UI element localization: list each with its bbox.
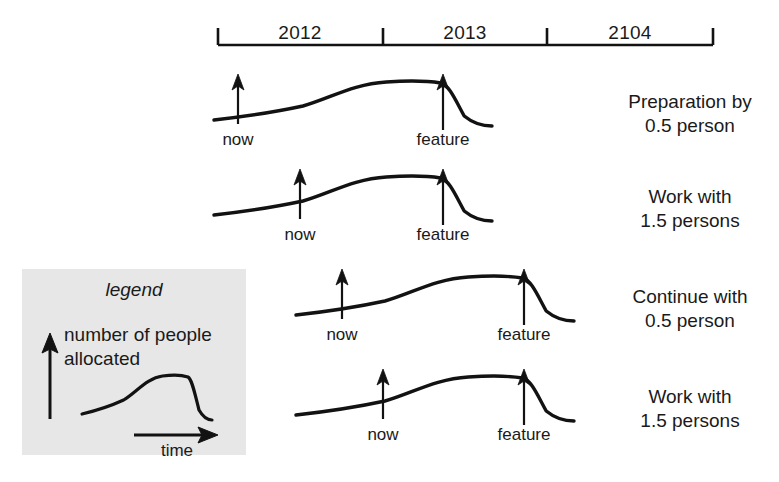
staffing-curve (214, 176, 492, 221)
staffing-curve (214, 81, 492, 126)
row-caption-line1: Work with (640, 385, 739, 409)
feature-label: feature (417, 225, 470, 245)
row-caption-line2: 1.5 persons (640, 209, 739, 233)
feature-label: feature (498, 425, 551, 445)
row-preparation: nowfeaturePreparation by0.5 person (0, 68, 779, 163)
row-caption-line2: 1.5 persons (640, 409, 739, 433)
row-caption: Work with1.5 persons (640, 385, 739, 433)
row-caption: Work with1.5 persons (640, 185, 739, 233)
legend-x-axis-label: time (161, 441, 193, 461)
year-label-2012: 2012 (240, 22, 360, 44)
row-caption: Continue with0.5 person (632, 285, 747, 333)
feature-label: feature (417, 130, 470, 150)
legend-sample-curve (82, 375, 212, 420)
row-caption-line1: Continue with (632, 285, 747, 309)
legend-y-axis-label-line2: allocated (64, 347, 212, 371)
row-caption-line2: 0.5 person (632, 309, 747, 333)
staffing-curve (296, 376, 574, 421)
legend-y-axis-label: number of people allocated (64, 323, 212, 371)
diagram-canvas: 2012 2013 2104 nowfeaturePreparation by0… (0, 0, 779, 482)
row-caption-line1: Preparation by (628, 90, 752, 114)
row-caption-line2: 0.5 person (628, 114, 752, 138)
legend-title: legend (105, 279, 162, 301)
row-work-1: nowfeatureWork with1.5 persons (0, 163, 779, 258)
now-label: now (326, 325, 357, 345)
row-caption-line1: Work with (640, 185, 739, 209)
now-label: now (367, 425, 398, 445)
feature-label: feature (498, 325, 551, 345)
now-label: now (222, 130, 253, 150)
year-label-2104: 2104 (570, 22, 690, 44)
now-label: now (284, 225, 315, 245)
year-label-2013: 2013 (405, 22, 525, 44)
legend-y-axis-label-line1: number of people (64, 323, 212, 347)
timeline-axis: 2012 2013 2104 (0, 0, 779, 70)
row-caption: Preparation by0.5 person (628, 90, 752, 138)
